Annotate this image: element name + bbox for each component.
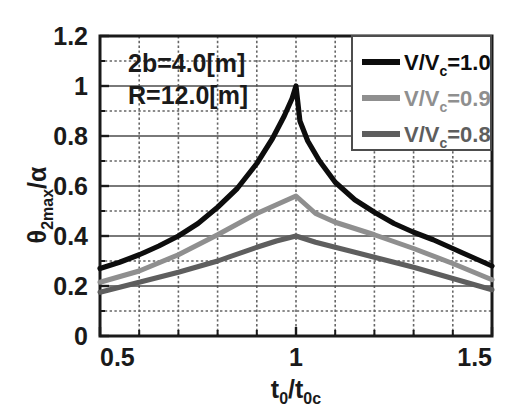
x-tick-label: 0.5 <box>100 343 135 371</box>
y-axis-title-sub: 2max <box>39 189 56 230</box>
annotation-line1: 2b=4.0[m] <box>128 49 245 77</box>
y-tick-label: 0.4 <box>53 222 88 250</box>
legend-label-sub: c <box>439 135 447 151</box>
y-axis-title-tail: /α <box>23 166 51 189</box>
legend-label-prefix: V/V <box>404 86 440 111</box>
legend-label-suffix: =1.0 <box>447 50 490 75</box>
y-tick-label: 1.2 <box>53 22 88 50</box>
legend-label-3: V/Vc=0.8 <box>404 122 491 151</box>
x-axis-title-sub2: 0c <box>303 390 321 407</box>
x-axis-title-mid: /t <box>288 375 304 403</box>
y-axis-title-theta: θ <box>23 230 51 244</box>
y-tick-label: 0.2 <box>53 272 88 300</box>
y-tick-label: 1 <box>74 72 88 100</box>
x-axis-title-sub: 0 <box>279 390 288 407</box>
annotation-line2: R=12.0[m] <box>128 81 248 109</box>
legend: V/Vc=1.0V/Vc=0.9V/Vc=0.8 <box>352 36 491 151</box>
chart-svg: 1.210.80.60.40.20 0.511.5 θ2max/α t0/t0c… <box>0 0 529 415</box>
x-tick-label: 1.5 <box>457 343 492 371</box>
legend-label-prefix: V/V <box>404 50 440 75</box>
x-tick-label: 1 <box>289 343 303 371</box>
legend-label-sub: c <box>439 99 447 115</box>
legend-label-suffix: =0.9 <box>447 86 490 111</box>
legend-label-prefix: V/V <box>404 122 440 147</box>
legend-label-2: V/Vc=0.9 <box>404 86 491 115</box>
chart-figure: 1.210.80.60.40.20 0.511.5 θ2max/α t0/t0c… <box>0 0 529 415</box>
legend-label-suffix: =0.8 <box>447 122 490 147</box>
legend-label-sub: c <box>439 63 447 79</box>
y-tick-label: 0.6 <box>53 172 88 200</box>
legend-label-1: V/Vc=1.0 <box>404 50 491 79</box>
y-tick-label: 0 <box>74 322 88 350</box>
y-tick-label: 0.8 <box>53 122 88 150</box>
